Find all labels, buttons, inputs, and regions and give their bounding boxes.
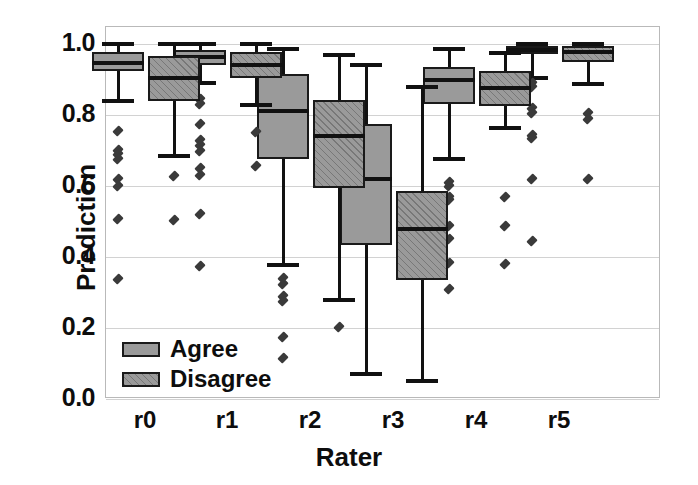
y-tick-0.4: 0.4 xyxy=(62,243,95,268)
median-line xyxy=(562,50,614,54)
y-tick-0.2: 0.2 xyxy=(62,314,95,339)
x-tick-r2: r2 xyxy=(270,408,350,432)
legend-item-agree[interactable]: Agree xyxy=(122,334,292,364)
outlier-point xyxy=(582,173,593,184)
legend-item-disagree[interactable]: Disagree xyxy=(122,364,292,394)
y-tick-1.0: 1.0 xyxy=(62,30,95,55)
legend-label-disagree: Disagree xyxy=(170,367,271,391)
y-tick-0.6: 0.6 xyxy=(62,172,95,197)
y-tick-0.0: 0.0 xyxy=(62,385,95,410)
x-axis-label: Rater xyxy=(0,442,698,473)
whisker-lower xyxy=(587,62,590,84)
legend-label-agree: Agree xyxy=(170,337,238,361)
gridline-0.0 xyxy=(106,399,659,400)
x-tick-r1: r1 xyxy=(187,408,267,432)
x-tick-r0: r0 xyxy=(105,408,185,432)
x-tick-r5: r5 xyxy=(519,408,599,432)
legend-swatch-agree xyxy=(122,342,160,357)
x-tick-r3: r3 xyxy=(353,408,433,432)
x-tick-r4: r4 xyxy=(436,408,516,432)
whisker-cap-lower xyxy=(572,82,604,86)
box-plot-figure: Prediction Rater 0.00.20.40.60.81.0 r0r1… xyxy=(0,0,698,485)
y-axis-label: Prediction xyxy=(71,128,102,328)
legend-swatch-disagree xyxy=(122,372,160,387)
legend: AgreeDisagree xyxy=(118,332,296,396)
y-tick-0.8: 0.8 xyxy=(62,101,95,126)
